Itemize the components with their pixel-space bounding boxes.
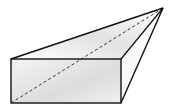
pyramid-diagram: [0, 0, 170, 111]
front-face: [11, 59, 121, 103]
